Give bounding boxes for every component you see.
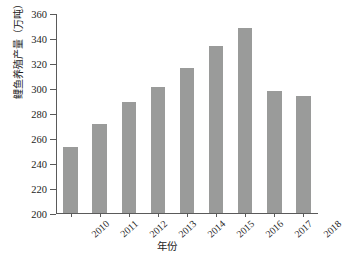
y-axis-tick bbox=[50, 89, 56, 90]
y-axis-tick bbox=[50, 214, 56, 215]
x-axis-tick-label: 2012 bbox=[147, 218, 169, 240]
bar bbox=[267, 91, 282, 214]
y-axis-tick-label: 280 bbox=[31, 109, 47, 120]
x-axis-tick bbox=[187, 213, 188, 217]
bar bbox=[63, 147, 78, 213]
bar bbox=[238, 28, 253, 213]
y-axis-tick bbox=[50, 164, 56, 165]
bar bbox=[122, 102, 137, 213]
x-axis-tick bbox=[216, 213, 217, 217]
bar bbox=[92, 124, 107, 213]
bar bbox=[296, 96, 311, 214]
x-axis-tick-label: 2018 bbox=[322, 218, 344, 240]
y-axis-tick-label: 360 bbox=[31, 9, 47, 20]
y-axis-tick bbox=[50, 139, 56, 140]
y-axis-tick bbox=[50, 39, 56, 40]
x-axis-tick bbox=[274, 213, 275, 217]
y-axis-tick-label: 220 bbox=[31, 184, 47, 195]
x-axis-tick-label: 2013 bbox=[176, 218, 198, 240]
y-axis-tick bbox=[50, 114, 56, 115]
y-axis-tick-label: 320 bbox=[31, 59, 47, 70]
x-axis-tick bbox=[158, 213, 159, 217]
y-axis-line bbox=[56, 14, 57, 214]
x-axis-tick-label: 2010 bbox=[89, 218, 111, 240]
y-axis-tick-label: 300 bbox=[31, 84, 47, 95]
x-axis-tick-label: 2016 bbox=[263, 218, 285, 240]
x-axis-tick-label: 2011 bbox=[118, 218, 140, 239]
x-axis-tick bbox=[129, 213, 130, 217]
x-axis-tick-label: 2015 bbox=[234, 218, 256, 240]
x-axis-tick-label: 2017 bbox=[292, 218, 314, 240]
bar bbox=[209, 46, 224, 214]
plot-area: 200220240260280300320340360 bbox=[56, 14, 318, 214]
y-axis-tick-label: 340 bbox=[31, 34, 47, 45]
y-axis-tick bbox=[50, 14, 56, 15]
y-axis-tick-label: 240 bbox=[31, 159, 47, 170]
x-axis-tick bbox=[100, 213, 101, 217]
x-axis-tick bbox=[303, 213, 304, 217]
y-axis-tick-label: 260 bbox=[31, 134, 47, 145]
y-axis-tick bbox=[50, 64, 56, 65]
bar bbox=[180, 68, 195, 213]
y-axis-title: 鲤鱼养殖产量（万吨） bbox=[10, 0, 24, 124]
x-axis-tick bbox=[245, 213, 246, 217]
bar bbox=[151, 87, 166, 213]
y-axis-tick bbox=[50, 189, 56, 190]
y-axis-tick-label: 200 bbox=[31, 209, 47, 220]
x-axis-tick-label: 2014 bbox=[205, 218, 227, 240]
x-axis-tick bbox=[71, 213, 72, 217]
x-axis-title: 年份 bbox=[0, 238, 333, 253]
